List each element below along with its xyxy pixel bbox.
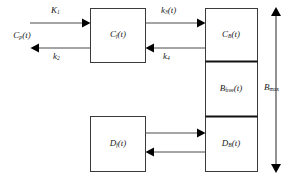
box-label-cb: CB(t) — [222, 30, 240, 40]
box-label-bfree: Bfree(t) — [220, 84, 243, 94]
arrow-k1-head — [82, 19, 91, 28]
arrow-k4-head — [146, 44, 155, 53]
node-label-cp: Cp(t) — [13, 31, 30, 41]
arrow-df-to-db-head — [197, 129, 206, 138]
bmax-axis-head-top — [271, 7, 281, 16]
box-label-cf: Cf(t) — [110, 30, 126, 40]
box-label-db: DB(t) — [222, 139, 240, 149]
diagram-graphics — [0, 0, 296, 176]
arrow-label-k1: K1 — [51, 6, 60, 16]
bmax-axis-head-bottom — [271, 164, 281, 173]
arrow-k3-head — [197, 19, 206, 28]
box-label-df: Df(t) — [110, 139, 127, 149]
arrow-label-k4: k4 — [163, 52, 170, 62]
arrow-label-k3: k3(t) — [161, 6, 176, 16]
arrow-label-k2: k2 — [53, 52, 60, 62]
arrow-db-to-df-head — [146, 148, 155, 157]
arrow-k2-head — [31, 44, 40, 53]
axis-label-bmax: Bmax — [264, 83, 279, 93]
diagram-canvas: Cp(t) Cf(t) CB(t) Bfree(t) DB(t) Df(t) K… — [0, 0, 296, 176]
